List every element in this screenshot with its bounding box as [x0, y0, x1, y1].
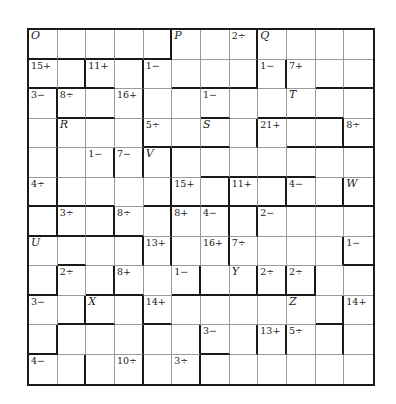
grid-cell[interactable]: 3− [201, 325, 230, 355]
grid-cell[interactable]: 3− [29, 89, 58, 119]
grid-cell[interactable] [86, 266, 115, 296]
grid-cell[interactable] [258, 89, 287, 119]
grid-cell[interactable]: 11+ [86, 60, 115, 90]
grid-cell[interactable] [344, 60, 373, 90]
grid-cell[interactable] [115, 237, 144, 267]
grid-cell[interactable] [144, 355, 173, 385]
grid-cell[interactable]: 14+ [144, 296, 173, 326]
grid-cell[interactable] [86, 89, 115, 119]
grid-cell[interactable] [287, 355, 316, 385]
grid-cell[interactable]: 5÷ [144, 119, 173, 149]
grid-cell[interactable]: 4− [287, 178, 316, 208]
grid-cell[interactable] [115, 325, 144, 355]
grid-cell[interactable]: V [144, 148, 173, 178]
grid-cell[interactable] [115, 30, 144, 60]
grid-cell[interactable] [115, 119, 144, 149]
grid-cell[interactable] [172, 148, 201, 178]
grid-cell[interactable] [287, 207, 316, 237]
grid-cell[interactable]: W [344, 178, 373, 208]
grid-cell[interactable] [86, 178, 115, 208]
grid-cell[interactable] [230, 296, 259, 326]
grid-cell[interactable] [86, 355, 115, 385]
grid-cell[interactable] [29, 119, 58, 149]
grid-cell[interactable] [144, 266, 173, 296]
grid-cell[interactable]: 4− [29, 355, 58, 385]
grid-cell[interactable] [230, 325, 259, 355]
grid-cell[interactable] [201, 60, 230, 90]
grid-cell[interactable]: 7− [115, 148, 144, 178]
grid-cell[interactable]: 13+ [258, 325, 287, 355]
grid-cell[interactable]: Q [258, 30, 287, 60]
grid-cell[interactable] [29, 325, 58, 355]
grid-cell[interactable]: S [201, 119, 230, 149]
grid-cell[interactable] [344, 207, 373, 237]
grid-cell[interactable]: 4÷ [29, 178, 58, 208]
grid-cell[interactable]: U [29, 237, 58, 267]
grid-cell[interactable] [316, 207, 345, 237]
grid-cell[interactable] [172, 89, 201, 119]
grid-cell[interactable]: 1− [172, 266, 201, 296]
grid-cell[interactable] [144, 207, 173, 237]
grid-cell[interactable] [316, 266, 345, 296]
grid-cell[interactable] [316, 325, 345, 355]
grid-cell[interactable]: X [86, 296, 115, 326]
kenken-grid[interactable]: OP2÷Q15+11+1−1−7+3−8÷16+1−TR5÷S21+8÷1−7−… [27, 28, 375, 386]
grid-cell[interactable] [316, 119, 345, 149]
grid-cell[interactable] [316, 178, 345, 208]
grid-cell[interactable] [144, 30, 173, 60]
grid-cell[interactable] [258, 148, 287, 178]
grid-cell[interactable]: 1− [144, 60, 173, 90]
grid-cell[interactable]: 2÷ [230, 30, 259, 60]
grid-cell[interactable]: 13+ [144, 237, 173, 267]
grid-cell[interactable] [287, 148, 316, 178]
grid-cell[interactable] [316, 355, 345, 385]
grid-cell[interactable] [115, 60, 144, 90]
grid-cell[interactable]: 3− [29, 296, 58, 326]
grid-cell[interactable] [201, 148, 230, 178]
grid-cell[interactable] [287, 237, 316, 267]
grid-cell[interactable]: 1− [201, 89, 230, 119]
grid-cell[interactable] [201, 266, 230, 296]
grid-cell[interactable]: Y [230, 266, 259, 296]
grid-cell[interactable] [258, 237, 287, 267]
grid-cell[interactable]: 2÷ [258, 266, 287, 296]
grid-cell[interactable] [86, 119, 115, 149]
grid-cell[interactable] [344, 325, 373, 355]
grid-cell[interactable] [58, 178, 87, 208]
grid-cell[interactable]: 1− [258, 60, 287, 90]
grid-cell[interactable]: 8÷ [58, 89, 87, 119]
grid-cell[interactable] [29, 207, 58, 237]
grid-cell[interactable] [230, 355, 259, 385]
grid-cell[interactable]: 16+ [115, 89, 144, 119]
grid-cell[interactable]: 11+ [230, 178, 259, 208]
grid-cell[interactable] [344, 355, 373, 385]
grid-cell[interactable]: 8+ [115, 266, 144, 296]
grid-cell[interactable] [316, 60, 345, 90]
grid-cell[interactable]: T [287, 89, 316, 119]
grid-cell[interactable]: 2− [258, 207, 287, 237]
grid-cell[interactable] [230, 89, 259, 119]
grid-cell[interactable]: Z [287, 296, 316, 326]
grid-cell[interactable] [58, 148, 87, 178]
grid-cell[interactable]: 7÷ [230, 237, 259, 267]
grid-cell[interactable]: 15+ [29, 60, 58, 90]
grid-cell[interactable] [344, 266, 373, 296]
grid-cell[interactable]: 8+ [172, 207, 201, 237]
grid-cell[interactable] [58, 237, 87, 267]
grid-cell[interactable]: O [29, 30, 58, 60]
grid-cell[interactable] [29, 266, 58, 296]
grid-cell[interactable] [230, 148, 259, 178]
grid-cell[interactable] [58, 325, 87, 355]
grid-cell[interactable] [58, 355, 87, 385]
grid-cell[interactable]: R [58, 119, 87, 149]
grid-cell[interactable]: 16+ [201, 237, 230, 267]
grid-cell[interactable] [230, 119, 259, 149]
grid-cell[interactable] [86, 207, 115, 237]
grid-cell[interactable]: 2÷ [58, 266, 87, 296]
grid-cell[interactable] [172, 296, 201, 326]
grid-cell[interactable] [86, 325, 115, 355]
grid-cell[interactable] [344, 30, 373, 60]
grid-cell[interactable] [86, 30, 115, 60]
grid-cell[interactable]: 4− [201, 207, 230, 237]
grid-cell[interactable] [172, 325, 201, 355]
